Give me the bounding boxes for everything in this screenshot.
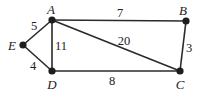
vertex-label-d: D (46, 77, 57, 92)
vertex-label-c: C (176, 77, 185, 92)
edge-weight-ae: 5 (31, 19, 37, 33)
vertex-a (48, 16, 55, 23)
edge-weight-bc: 3 (186, 41, 192, 55)
edge-weight-dc: 8 (109, 74, 115, 88)
vertex-d (48, 67, 55, 74)
vertex-b (182, 17, 189, 24)
edge-weight-ab: 7 (117, 6, 123, 20)
vertex-labels: ABCDE (7, 2, 187, 92)
edges (23, 20, 186, 71)
edge-ae (23, 20, 52, 45)
edge-ed (23, 45, 52, 71)
edge-ab (52, 20, 186, 21)
edge-ac (52, 20, 180, 71)
edge-weight-ad: 11 (55, 39, 67, 53)
edge-weight-ac: 20 (118, 34, 131, 48)
vertex-label-a: A (46, 2, 55, 17)
vertex-c (176, 67, 183, 74)
weighted-graph: 720115384 ABCDE (0, 0, 204, 98)
vertex-label-e: E (7, 38, 16, 53)
edge-weight-ed: 4 (30, 59, 37, 73)
vertex-label-b: B (179, 3, 187, 18)
vertex-e (19, 41, 26, 48)
